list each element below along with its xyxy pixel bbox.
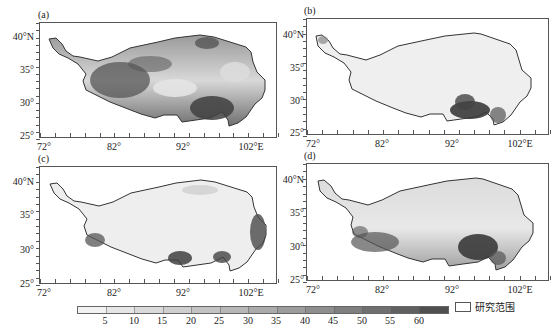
- colorbar-segment: [221, 307, 250, 313]
- colorbar-label: 40: [295, 315, 315, 326]
- colorbar-segment: [78, 307, 107, 313]
- colorbar-segment: [249, 307, 278, 313]
- colorbar-segment: [420, 307, 448, 313]
- colorbar-segment: [392, 307, 421, 313]
- colorbar-segment: [278, 307, 307, 313]
- colorbar-label: 45: [323, 315, 343, 326]
- y-tick-40: 40°N: [270, 174, 304, 185]
- colorbar-label: 30: [238, 315, 258, 326]
- colorbar-label: 15: [152, 315, 172, 326]
- colorbar-segment: [164, 307, 193, 313]
- y-tick-35: 35°: [270, 207, 304, 218]
- x-tick-72: 72°: [293, 284, 333, 295]
- colorbar-label: 55: [380, 315, 400, 326]
- colorbar-label: 35: [266, 315, 286, 326]
- colorbar-segment: [363, 307, 392, 313]
- x-tick-102: 102°E: [500, 284, 540, 295]
- colorbar-label: 5: [95, 315, 115, 326]
- colorbar-label: 25: [209, 315, 229, 326]
- x-tick-82: 82°: [362, 284, 402, 295]
- colorbar: [77, 306, 449, 314]
- colorbar-segment: [192, 307, 221, 313]
- x-tick-92: 92°: [432, 284, 472, 295]
- colorbar-segment: [107, 307, 136, 313]
- colorbar-segment: [306, 307, 335, 313]
- colorbar-label: 50: [352, 315, 372, 326]
- colorbar-label: 20: [181, 315, 201, 326]
- colorbar-segment: [135, 307, 164, 313]
- y-tick-30: 30°: [270, 241, 304, 252]
- study-area-legend-label: 研究范围: [475, 299, 515, 314]
- colorbar-label: 10: [124, 315, 144, 326]
- colorbar-label: 60: [409, 315, 429, 326]
- study-area-legend-swatch: [455, 302, 471, 312]
- colorbar-segment: [335, 307, 364, 313]
